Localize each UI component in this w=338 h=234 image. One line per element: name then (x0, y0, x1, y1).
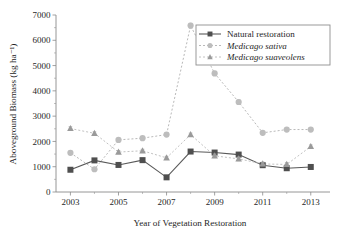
x-axis-ticks: 200320052007200920112013 (61, 192, 320, 207)
marker-triangle (91, 130, 98, 136)
marker-circle (308, 126, 314, 132)
marker-square (164, 174, 170, 180)
marker-triangle (139, 147, 146, 153)
marker-circle (284, 126, 290, 132)
marker-square (140, 157, 146, 163)
marker-circle (212, 70, 218, 76)
marker-square (308, 164, 314, 170)
chart-figure: Aboveground Biomass (kg ha⁻¹) Year of Ve… (0, 0, 338, 234)
chart-legend[interactable]: Natural restorationMedicago sativaMedica… (196, 25, 330, 65)
marker-circle (260, 130, 266, 136)
x-tick-label: 2011 (254, 197, 272, 207)
legend-label: Medicago sativa (226, 41, 287, 51)
legend-label: Natural restoration (227, 29, 295, 39)
marker-triangle (67, 125, 74, 131)
y-tick-label: 4000 (33, 86, 52, 96)
marker-circle (163, 132, 169, 138)
marker-circle (91, 166, 97, 172)
x-tick-label: 2005 (109, 197, 128, 207)
biomass-line-chart: Aboveground Biomass (kg ha⁻¹) Year of Ve… (0, 0, 338, 234)
x-tick-label: 2007 (158, 197, 177, 207)
x-tick-label: 2003 (61, 197, 80, 207)
y-tick-label: 7000 (33, 10, 52, 20)
y-axis-title: Aboveground Biomass (kg ha⁻¹) (8, 44, 18, 165)
marker-square (115, 162, 121, 168)
marker-circle (236, 99, 242, 105)
legend-label: Medicago suaveolens (226, 52, 305, 62)
marker-circle (115, 137, 121, 143)
y-tick-label: 0 (46, 187, 51, 197)
marker-circle (187, 23, 193, 29)
marker-circle (67, 150, 73, 156)
marker-circle (139, 135, 145, 141)
y-tick-label: 1000 (33, 162, 52, 172)
y-tick-label: 2000 (33, 137, 52, 147)
marker-circle (207, 43, 212, 48)
marker-square (208, 32, 213, 37)
marker-square (67, 167, 73, 173)
x-tick-label: 2013 (302, 197, 321, 207)
x-axis-title: Year of Vegetation Restoration (134, 218, 247, 228)
marker-triangle (307, 143, 314, 149)
x-tick-label: 2009 (206, 197, 225, 207)
y-tick-label: 6000 (33, 35, 52, 45)
marker-triangle (187, 131, 194, 137)
y-axis-ticks: 01000200030004000500060007000 (33, 10, 57, 197)
series-path (70, 152, 310, 178)
marker-square (188, 149, 194, 155)
y-tick-label: 5000 (33, 61, 52, 71)
marker-square (91, 157, 97, 163)
y-tick-label: 3000 (33, 111, 52, 121)
